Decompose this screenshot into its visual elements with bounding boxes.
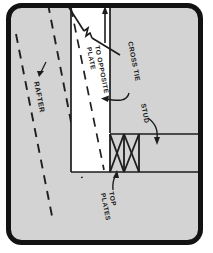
framing-detail-figure: RAFTER TO OPPOSITE PLATE CROSS TIE [0, 0, 213, 253]
figure-canvas: RAFTER TO OPPOSITE PLATE CROSS TIE [0, 0, 213, 253]
